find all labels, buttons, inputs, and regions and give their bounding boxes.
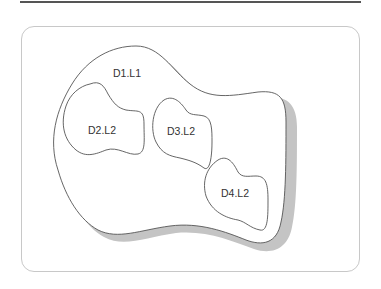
- label-d2-l2: D2.L2: [88, 124, 116, 136]
- region-diagram: D1.L1 D2.L2 D3.L2 D4.L2: [0, 0, 381, 289]
- label-d4-l2: D4.L2: [221, 187, 249, 199]
- label-d3-l2: D3.L2: [167, 125, 195, 137]
- label-d1-l1: D1.L1: [113, 67, 141, 79]
